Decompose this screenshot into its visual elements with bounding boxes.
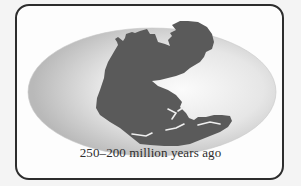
map-caption: 250–200 million years ago (0, 145, 301, 161)
